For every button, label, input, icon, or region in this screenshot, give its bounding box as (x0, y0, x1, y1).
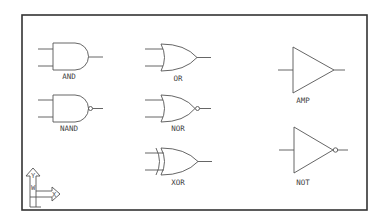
nor-gate-icon[interactable]: NOR (145, 95, 211, 133)
not-inverter-icon[interactable]: NOT (279, 127, 348, 187)
not-label: NOT (296, 178, 310, 187)
or-label: OR (173, 74, 183, 83)
ucs-y-label: Y (31, 172, 36, 180)
drawing-frame (22, 15, 367, 210)
amp-buffer-icon[interactable]: AMP (278, 47, 345, 105)
nand-label: NAND (60, 124, 79, 133)
ucs-axis-icon: Y W X (26, 168, 60, 207)
drawing-canvas: AND NAND OR NOR XOR (0, 0, 387, 222)
nor-label: NOR (171, 124, 185, 133)
xor-label: XOR (171, 178, 185, 187)
and-gate-icon[interactable]: AND (38, 43, 103, 81)
nand-gate-icon[interactable]: NAND (38, 95, 103, 133)
xor-gate-icon[interactable]: XOR (145, 148, 212, 187)
and-label: AND (62, 72, 76, 81)
or-gate-icon[interactable]: OR (145, 44, 211, 83)
amp-label: AMP (296, 96, 310, 105)
ucs-w-label: W (31, 184, 36, 192)
